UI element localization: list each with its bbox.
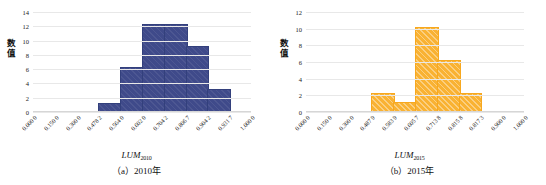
grid-line bbox=[33, 83, 251, 84]
x-axis-title-sub-a: 2010 bbox=[140, 155, 151, 161]
y-axis-tick-label: 2 bbox=[299, 92, 302, 99]
y-axis-tick-label: 12 bbox=[296, 9, 303, 16]
x-axis-tick-label: 0.000 0 bbox=[293, 114, 311, 132]
x-axis-tick-label: 0.815 8 bbox=[446, 114, 464, 132]
x-axis-tick-label: 0.150 0 bbox=[42, 114, 60, 132]
histogram-bar bbox=[415, 27, 439, 112]
grid-line bbox=[306, 112, 524, 113]
histogram-bar bbox=[164, 24, 188, 112]
figure-container: 数值 02468101214 0.000 00.150 00.300 00.47… bbox=[0, 0, 546, 185]
plot-area-b: 024681012 bbox=[306, 12, 524, 112]
x-axis-tick-label: 0.564 0 bbox=[108, 114, 126, 132]
grid-line bbox=[306, 29, 524, 30]
y-axis-tick-label: 0 bbox=[299, 109, 302, 116]
x-axis-title-sub-b: 2015 bbox=[413, 155, 424, 161]
x-axis-tick-label: 0.602 0 bbox=[129, 114, 147, 132]
grid-line bbox=[306, 95, 524, 96]
x-axis-tick-label: 0.904 2 bbox=[195, 114, 213, 132]
y-axis-title-a: 数值 bbox=[4, 38, 18, 58]
x-axis-tick-label: 0.713 8 bbox=[424, 114, 442, 132]
y-axis-title-b: 数值 bbox=[277, 38, 291, 58]
y-axis-tick-label: 14 bbox=[23, 9, 30, 16]
x-axis-tick-labels-b: 0.000 00.150 00.300 00.487 90.583 90.605… bbox=[306, 114, 524, 148]
grid-line bbox=[33, 98, 251, 99]
y-axis-tick-label: 4 bbox=[26, 80, 29, 87]
plot-area-a: 02468101214 bbox=[33, 12, 251, 112]
y-axis-tick-label: 10 bbox=[23, 37, 30, 44]
y-axis-tick-label: 2 bbox=[26, 94, 29, 101]
x-axis-tick-labels-a: 0.000 00.150 00.300 00.478 20.564 00.602… bbox=[33, 114, 251, 148]
histogram-bar bbox=[120, 67, 144, 112]
x-axis-tick-label: 0.817 3 bbox=[468, 114, 486, 132]
grid-line bbox=[306, 45, 524, 46]
x-axis-tick-label: 0.931 7 bbox=[217, 114, 235, 132]
x-axis-tick-label: 0.605 7 bbox=[402, 114, 420, 132]
y-axis-tick-label: 0 bbox=[26, 109, 29, 116]
x-axis-tick-label: 1.000 0 bbox=[511, 114, 529, 132]
chart-panel-a: 数值 02468101214 0.000 00.150 00.300 00.47… bbox=[0, 0, 273, 185]
x-axis-title-main-a: LUM bbox=[121, 150, 140, 160]
x-axis-tick-label: 0.704 2 bbox=[151, 114, 169, 132]
grid-line bbox=[33, 55, 251, 56]
panel-caption-b: （b）2015年 bbox=[273, 164, 546, 177]
x-axis-tick-label: 0.478 2 bbox=[86, 114, 104, 132]
x-axis-tick-label: 0.806 7 bbox=[173, 114, 191, 132]
y-axis-tick-label: 8 bbox=[26, 51, 29, 58]
grid-line bbox=[306, 62, 524, 63]
histogram-bar bbox=[207, 89, 231, 112]
grid-line bbox=[306, 79, 524, 80]
y-axis-tick-label: 4 bbox=[299, 75, 302, 82]
y-axis-tick-label: 8 bbox=[299, 42, 302, 49]
panel-caption-a: （a）2010年 bbox=[0, 164, 273, 177]
x-axis-tick-label: 0.900 0 bbox=[490, 114, 508, 132]
x-axis-tick-label: 1.000 0 bbox=[238, 114, 256, 132]
x-axis-tick-label: 0.000 0 bbox=[20, 114, 38, 132]
grid-line bbox=[33, 69, 251, 70]
x-axis-title-a: LUM2010 bbox=[0, 150, 273, 160]
histogram-bar bbox=[142, 24, 166, 112]
x-axis-tick-label: 0.150 0 bbox=[315, 114, 333, 132]
grid-line bbox=[33, 41, 251, 42]
y-axis-tick-label: 12 bbox=[23, 23, 30, 30]
grid-line bbox=[33, 112, 251, 113]
histogram-bar bbox=[437, 60, 461, 112]
chart-panel-b: 数值 024681012 0.000 00.150 00.300 00.487 … bbox=[273, 0, 546, 185]
x-axis-tick-label: 0.300 0 bbox=[337, 114, 355, 132]
grid-line bbox=[33, 12, 251, 13]
x-axis-title-b: LUM2015 bbox=[273, 150, 546, 160]
y-axis-tick-label: 6 bbox=[299, 59, 302, 66]
grid-line bbox=[33, 26, 251, 27]
grid-line bbox=[306, 12, 524, 13]
x-axis-tick-label: 0.583 9 bbox=[381, 114, 399, 132]
x-axis-title-main-b: LUM bbox=[394, 150, 413, 160]
y-axis-tick-label: 6 bbox=[26, 66, 29, 73]
y-axis-tick-label: 10 bbox=[296, 25, 303, 32]
x-axis-tick-label: 0.487 9 bbox=[359, 114, 377, 132]
x-axis-tick-label: 0.300 0 bbox=[64, 114, 82, 132]
